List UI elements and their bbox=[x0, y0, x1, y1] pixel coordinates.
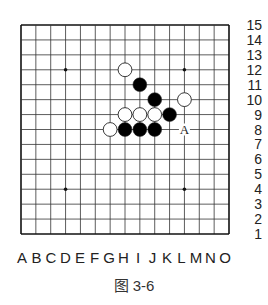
go-board: A bbox=[0, 0, 268, 250]
white-stone-g8 bbox=[103, 123, 117, 137]
marker-label-a: A bbox=[180, 122, 190, 137]
row-label: 7 bbox=[236, 137, 262, 151]
row-label: 5 bbox=[236, 167, 262, 181]
black-stone-j8 bbox=[148, 123, 162, 137]
white-stone-i9 bbox=[133, 108, 147, 122]
row-label: 8 bbox=[236, 123, 262, 137]
star-point bbox=[64, 68, 68, 72]
column-label: J bbox=[146, 250, 160, 266]
white-stone-h12 bbox=[118, 63, 132, 77]
star-point bbox=[64, 187, 68, 191]
column-label: L bbox=[175, 250, 189, 266]
column-label: H bbox=[117, 250, 131, 266]
row-label: 3 bbox=[236, 197, 262, 211]
markers-layer: A bbox=[179, 122, 190, 137]
row-label: 11 bbox=[236, 78, 262, 92]
column-label: G bbox=[102, 250, 116, 266]
column-label: E bbox=[73, 250, 87, 266]
column-label: B bbox=[30, 250, 44, 266]
black-stone-j10 bbox=[148, 93, 162, 107]
column-label: F bbox=[88, 250, 102, 266]
column-label: D bbox=[59, 250, 73, 266]
black-stone-h8 bbox=[118, 123, 132, 137]
column-label: I bbox=[131, 250, 145, 266]
star-point bbox=[183, 68, 187, 72]
row-label: 14 bbox=[236, 33, 262, 47]
black-stone-i11 bbox=[133, 78, 147, 92]
row-label: 1 bbox=[236, 227, 262, 241]
white-stone-h9 bbox=[118, 108, 132, 122]
white-stone-l10 bbox=[178, 93, 192, 107]
white-stone-j9 bbox=[148, 108, 162, 122]
column-label: K bbox=[160, 250, 174, 266]
black-stone-i8 bbox=[133, 123, 147, 137]
row-label: 2 bbox=[236, 212, 262, 226]
star-point bbox=[183, 187, 187, 191]
row-label: 9 bbox=[236, 108, 262, 122]
column-label: N bbox=[204, 250, 218, 266]
row-label: 12 bbox=[236, 63, 262, 77]
column-label: C bbox=[44, 250, 58, 266]
row-label: 4 bbox=[236, 182, 262, 196]
row-label: 13 bbox=[236, 48, 262, 62]
column-label: O bbox=[218, 250, 232, 266]
row-label: 6 bbox=[236, 152, 262, 166]
figure-caption: 图 3-6 bbox=[0, 274, 268, 295]
black-stone-k9 bbox=[163, 108, 177, 122]
column-label: M bbox=[189, 250, 203, 266]
row-label: 10 bbox=[236, 93, 262, 107]
column-label: A bbox=[15, 250, 29, 266]
row-label: 15 bbox=[236, 18, 262, 32]
